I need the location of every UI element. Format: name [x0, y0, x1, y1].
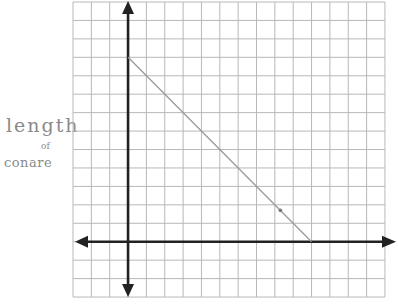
graph-paper-chart [0, 0, 398, 306]
arrow-down-icon [122, 284, 134, 297]
arrow-right-icon [382, 236, 396, 248]
arrow-left-icon [75, 236, 88, 248]
arrow-up-icon [122, 1, 134, 14]
data-point-dot [279, 209, 283, 213]
grid-lines [73, 2, 385, 297]
